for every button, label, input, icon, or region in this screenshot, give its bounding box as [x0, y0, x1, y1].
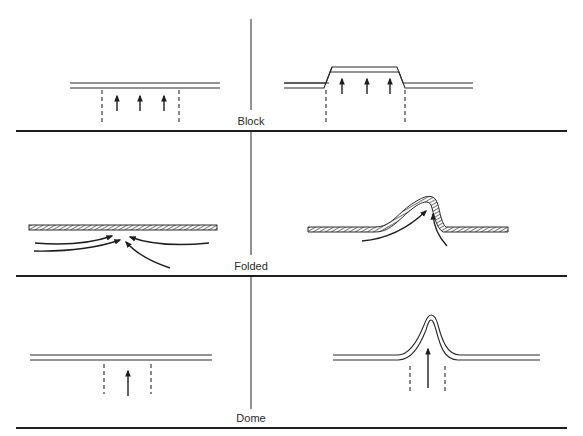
- label-dome: Dome: [236, 412, 265, 424]
- folded-before: [29, 225, 217, 268]
- dome-before: [30, 355, 212, 396]
- label-folded: Folded: [234, 260, 268, 272]
- folded-after: [308, 196, 508, 246]
- uplift-diagram: Block Folded Dome: [0, 0, 583, 436]
- label-block: Block: [238, 115, 265, 127]
- dome-after: [333, 315, 540, 394]
- block-before: [70, 83, 220, 123]
- block-after: [284, 67, 473, 123]
